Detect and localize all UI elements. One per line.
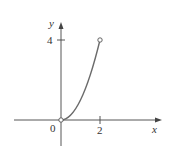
x-axis-arrow-icon	[155, 118, 162, 123]
x-tick-label-2: 2	[97, 124, 103, 136]
y-tick-label-4: 4	[47, 34, 53, 46]
open-circle-origin	[59, 118, 63, 122]
parabola-curve	[61, 40, 100, 120]
open-circle-endpoint	[98, 38, 102, 42]
plot-canvas: y x 0 2 4	[0, 0, 170, 148]
x-axis-label: x	[151, 123, 157, 135]
y-axis-label: y	[48, 17, 54, 29]
graph-figure: y x 0 2 4	[0, 0, 170, 148]
y-axis-arrow-icon	[59, 22, 64, 29]
origin-label: 0	[50, 122, 56, 134]
